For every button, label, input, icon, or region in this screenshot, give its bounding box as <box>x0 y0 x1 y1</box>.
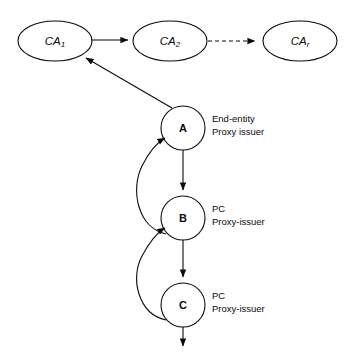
edge-a-to-ca1 <box>86 58 172 108</box>
node-c-label: C <box>179 299 187 311</box>
node-b-role-line1: PC <box>212 203 225 214</box>
node-a-label: A <box>179 122 187 134</box>
proxy-chain-diagram: CA1 CA2 CAr A B C End-entity Proxy issue… <box>0 0 350 357</box>
node-a-role-line2: Proxy issuer <box>212 126 264 137</box>
node-c-role-line2: Proxy-issuer <box>212 303 265 314</box>
node-b-label: B <box>179 212 187 224</box>
diagram-canvas: CA1 CA2 CAr A B C End-entity Proxy issue… <box>0 0 350 357</box>
node-a-role-line1: End-entity <box>212 113 255 124</box>
node-c-role-line1: PC <box>212 290 225 301</box>
node-b-role-line2: Proxy-issuer <box>212 216 265 227</box>
